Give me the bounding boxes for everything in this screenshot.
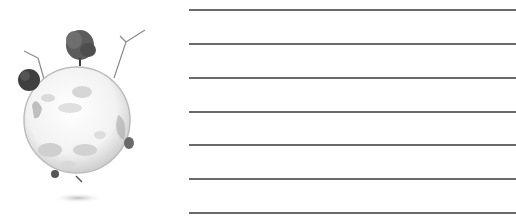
ground-shadow xyxy=(52,193,104,203)
writing-line-1 xyxy=(189,9,516,11)
tree-top-icon xyxy=(66,30,96,66)
writing-line-6 xyxy=(189,178,516,180)
globe-icon xyxy=(0,0,180,220)
writing-line-7 xyxy=(189,212,516,214)
wind-turbine-right-icon xyxy=(114,30,145,78)
writing-line-4 xyxy=(189,111,516,113)
writing-line-5 xyxy=(189,144,516,146)
writing-line-2 xyxy=(189,43,516,45)
writing-lines xyxy=(189,0,516,220)
writing-line-3 xyxy=(189,77,516,79)
tree-right-icon xyxy=(124,137,134,149)
tree-left-icon xyxy=(18,69,40,91)
globe xyxy=(24,67,130,173)
eco-globe-illustration xyxy=(0,0,180,220)
